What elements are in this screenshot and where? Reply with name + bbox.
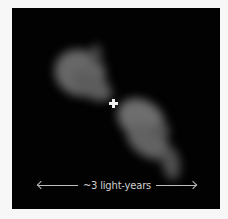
right-arrow-icon	[156, 185, 196, 186]
lower-lobe-tail	[159, 145, 183, 182]
scale-bar: ~3 light-years	[38, 178, 196, 192]
scale-label: ~3 light-years	[78, 180, 156, 191]
upper-lobe-wisp	[90, 44, 102, 66]
cross-marker	[109, 99, 118, 108]
astronomical-image: ~3 light-years	[12, 8, 220, 209]
left-arrow-icon	[38, 185, 78, 186]
lower-lobe-wisp	[152, 124, 170, 138]
